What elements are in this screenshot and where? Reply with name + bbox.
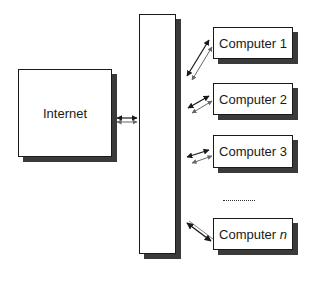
connection-arrows — [0, 0, 318, 281]
computer-2-arrows — [188, 96, 212, 113]
computer-n-arrows — [187, 221, 213, 241]
computer-1-arrows — [187, 40, 212, 80]
computer-3-arrows — [187, 150, 212, 163]
internet-hub-arrows — [117, 118, 137, 122]
